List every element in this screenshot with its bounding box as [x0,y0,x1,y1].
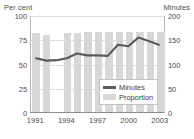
right-axis-tick: 0 [168,109,190,118]
x-axis-tick: 2000 [120,116,137,125]
left-axis-tick: 0 [5,109,27,118]
chart-legend: Minutes Proportion [99,79,158,105]
legend-item-proportion: Proportion [103,92,153,102]
right-axis-tick: 50 [168,85,190,94]
legend-label-minutes: Minutes [119,83,145,92]
right-axis-tick: 200 [168,12,190,21]
x-axis-tick: 2003 [151,116,168,125]
right-axis-unit-label: Minutes [163,3,190,12]
x-axis-tick: 1994 [58,116,75,125]
left-axis-tick: 100 [5,12,27,21]
x-axis-tick: 1991 [27,116,44,125]
chart-figure: Per cent Minutes 1007550250 200150100500… [0,0,194,139]
left-axis-tick: 25 [5,85,27,94]
legend-item-minutes: Minutes [103,82,153,92]
right-axis-tick: 150 [168,36,190,45]
left-axis-tick: 75 [5,36,27,45]
left-axis-unit-label: Per cent [4,3,32,12]
x-axis-tick: 1997 [89,116,106,125]
right-axis-tick: 100 [168,61,190,70]
line-swatch-icon [103,86,116,89]
plot-area: Minutes Proportion [30,16,165,113]
left-axis-tick: 50 [5,61,27,70]
legend-label-proportion: Proportion [119,93,153,102]
bar-swatch-icon [103,94,116,100]
